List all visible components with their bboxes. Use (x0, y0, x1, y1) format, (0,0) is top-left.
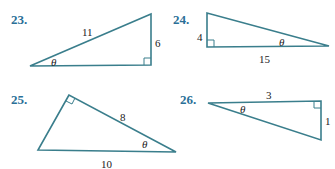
problem-23: 23. 11 6 θ (11, 12, 161, 68)
side-label-adjacent: 3 (266, 89, 272, 101)
right-triangle (30, 14, 151, 66)
right-angle-marker (314, 101, 321, 108)
side-label-adjacent: 15 (259, 53, 271, 65)
side-label-opposite: 1 (325, 115, 331, 127)
triangle-exercises: 23. 11 6 θ 24. 4 15 θ 25. 8 10 θ 26. 3 1… (0, 0, 335, 169)
right-triangle (38, 95, 176, 152)
right-triangle (207, 13, 329, 47)
problem-24: 24. 4 15 θ (173, 12, 329, 65)
problem-26: 26. 3 1 θ (180, 89, 331, 140)
theta-label: θ (240, 103, 246, 115)
side-label-adjacent: 8 (120, 111, 126, 123)
problem-number: 25. (11, 92, 27, 107)
side-label-opposite: 6 (155, 37, 161, 49)
side-label-hypotenuse: 11 (82, 26, 93, 38)
side-label-hypotenuse: 10 (101, 158, 113, 169)
right-triangle (208, 101, 321, 140)
theta-label: θ (279, 36, 285, 48)
problem-number: 24. (173, 12, 189, 27)
problem-number: 23. (11, 12, 27, 27)
right-angle-marker (207, 40, 214, 47)
theta-label: θ (142, 138, 148, 150)
problem-25: 25. 8 10 θ (11, 92, 176, 169)
right-angle-marker (144, 58, 151, 65)
problem-number: 26. (180, 92, 196, 107)
side-label-opposite: 4 (197, 31, 203, 43)
theta-label: θ (51, 56, 57, 68)
